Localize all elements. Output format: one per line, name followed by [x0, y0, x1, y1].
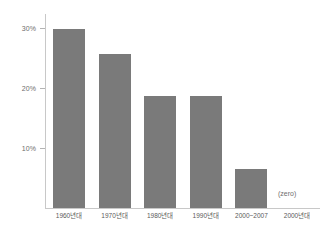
bar-1970s — [99, 54, 131, 208]
bar-slot — [137, 14, 183, 208]
bar-slot — [183, 14, 229, 208]
y-tick-label-10: 10% — [2, 145, 36, 152]
y-tick-mark-10 — [40, 148, 45, 149]
bar-1960s — [53, 29, 85, 208]
plot-area — [46, 14, 320, 208]
bar-slot — [228, 14, 274, 208]
bar-slot — [46, 14, 92, 208]
y-tick-label-20: 20% — [2, 85, 36, 92]
x-axis-line — [45, 208, 320, 209]
bar-1990s — [190, 96, 222, 208]
bar-slot — [92, 14, 138, 208]
bar-chart: 30% 20% 10% (zero) 1960년대 1970년대 1980년대 … — [0, 0, 328, 236]
y-tick-label-30: 30% — [2, 25, 36, 32]
bar-2000-2007 — [235, 169, 267, 208]
y-tick-mark-30 — [40, 28, 45, 29]
zero-annotation: (zero) — [278, 190, 296, 197]
x-category-label-2000s: 2000년대 — [267, 213, 327, 220]
y-tick-mark-20 — [40, 88, 45, 89]
bar-1980s — [144, 96, 176, 208]
bar-slot — [274, 14, 320, 208]
